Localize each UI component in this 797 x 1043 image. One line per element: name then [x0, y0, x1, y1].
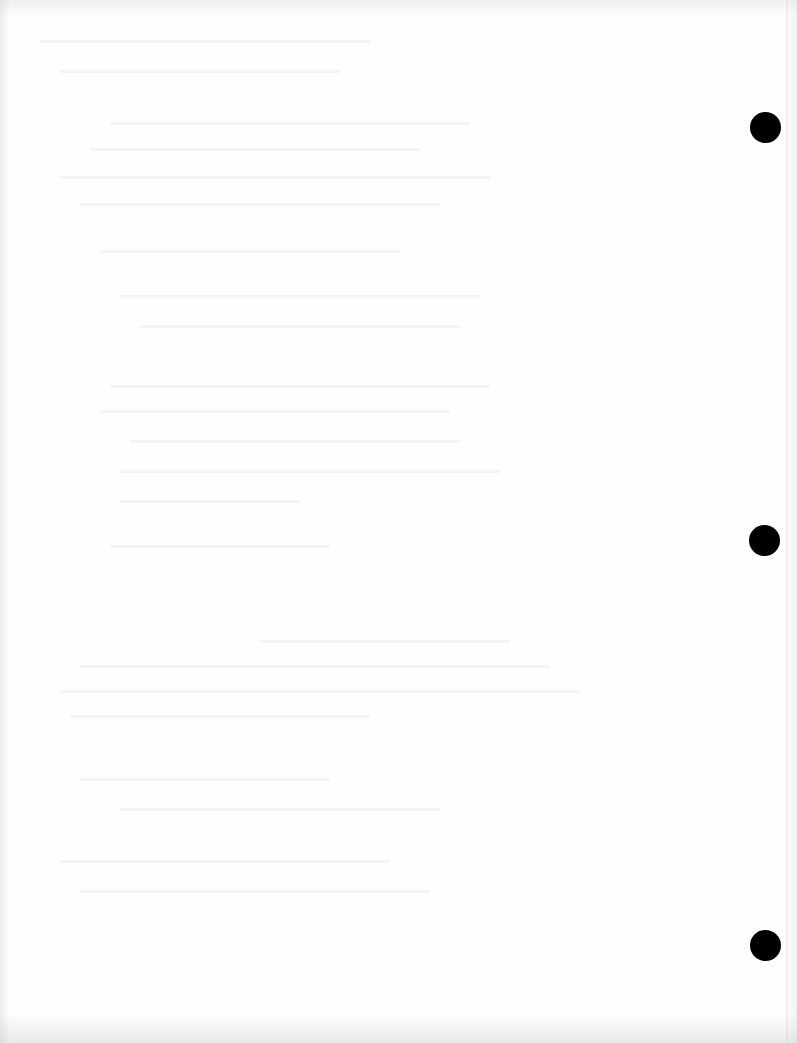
bleed-through-line: [40, 40, 370, 43]
bleed-through-line: [60, 860, 390, 863]
bleed-through-line: [120, 808, 440, 811]
punch-hole-bottom: [750, 930, 781, 961]
bleed-through-line: [100, 410, 450, 413]
bleed-through-line: [130, 440, 460, 443]
bleed-through-line: [260, 640, 510, 643]
scan-edge-bottom: [0, 1013, 797, 1043]
bleed-through-line: [70, 715, 370, 718]
bleed-through-line: [60, 70, 340, 73]
bleed-through-line: [60, 690, 580, 693]
bleed-through-line: [110, 545, 330, 548]
bleed-through-line: [110, 385, 490, 388]
bleed-through-line: [90, 148, 420, 151]
scanned-page: Mostly blank paper with faint illegible …: [0, 0, 797, 1043]
bleed-through-line: [80, 890, 430, 893]
punch-hole-top: [750, 112, 781, 143]
bleed-through-line: [80, 778, 330, 781]
scan-edge-top: [0, 0, 797, 16]
bleed-through-line: [60, 176, 490, 179]
bleed-through-line: [120, 500, 300, 503]
scan-edge-left: [0, 0, 10, 1043]
bleed-through-line: [120, 470, 500, 473]
bleed-through-line: [110, 122, 470, 125]
scan-edge-right: [787, 0, 797, 1043]
bleed-through-line: [120, 295, 480, 298]
bleed-through-line: [100, 250, 400, 253]
bleed-through-line: [80, 203, 440, 206]
bleed-through-line: [80, 665, 550, 668]
paper-edge-line: [786, 0, 788, 1043]
punch-hole-middle: [749, 525, 780, 556]
bleed-through-line: [140, 325, 460, 328]
